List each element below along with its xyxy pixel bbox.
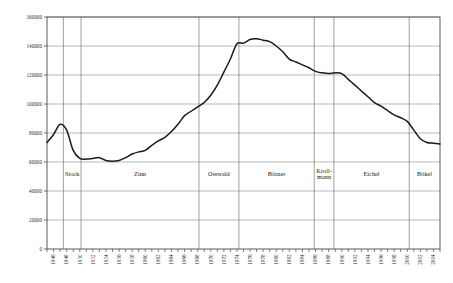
x-tick-label: 2004	[430, 254, 436, 265]
x-tick-label: 1986	[312, 254, 318, 265]
period-label-line: mann	[317, 173, 332, 180]
x-tick-label: 1954	[103, 254, 109, 265]
period-label: Bökel	[417, 170, 432, 177]
x-tick-label: 1946	[50, 254, 56, 265]
y-tick-label: 100000	[26, 101, 42, 107]
x-tick-label: 1998	[391, 254, 397, 265]
x-tick-label: 1996	[378, 254, 384, 265]
y-tick-label: 160000	[26, 14, 42, 20]
period-label: Eichel	[364, 170, 380, 177]
y-tick-label: 60000	[29, 159, 42, 165]
period-label: Osswald	[208, 170, 231, 177]
period-label: Stock	[65, 170, 80, 177]
x-tick-label: 1970	[208, 254, 214, 265]
x-tick-label: 1988	[325, 254, 331, 265]
x-tick-label: 1994	[365, 254, 371, 265]
x-tick-label: 1974	[234, 254, 240, 265]
y-tick-label: 120000	[26, 72, 42, 78]
period-label: Börner	[268, 170, 286, 177]
x-tick-label: 1984	[299, 254, 305, 265]
x-tick-label: 1952	[90, 254, 96, 265]
x-tick-label: 1990	[339, 254, 345, 265]
x-tick-label: 1966	[181, 254, 187, 265]
x-tick-label: 1962	[155, 254, 161, 265]
x-tick-label: 2002	[417, 254, 423, 265]
x-tick-label: 1978	[260, 254, 266, 265]
y-tick-label: 40000	[29, 188, 42, 194]
x-tick-label: 1960	[142, 254, 148, 265]
x-tick-label: 2000	[404, 254, 410, 265]
x-tick-label: 1982	[286, 254, 292, 265]
line-chart: 0200004000060000800001000001200001400001…	[0, 0, 453, 283]
x-tick-label: 1964	[168, 254, 174, 265]
y-tick-label: 140000	[26, 43, 42, 49]
x-tick-label: 1956	[116, 254, 122, 265]
y-tick-label: 20000	[29, 217, 42, 223]
x-tick-label: 1948	[63, 254, 69, 265]
x-tick-label: 1968	[194, 254, 200, 265]
period-label: Zinn	[134, 170, 147, 177]
chart-background	[0, 0, 453, 283]
x-tick-label: 1972	[221, 254, 227, 265]
chart-container: 0200004000060000800001000001200001400001…	[0, 0, 453, 283]
y-tick-label: 0	[39, 246, 42, 252]
x-tick-label: 1976	[247, 254, 253, 265]
x-tick-label: 1950	[77, 254, 83, 265]
x-tick-label: 1958	[129, 254, 135, 265]
x-tick-label: 1992	[352, 254, 358, 265]
x-tick-label: 1980	[273, 254, 279, 265]
period-label: Kroll-mann	[316, 167, 332, 181]
y-tick-label: 80000	[29, 130, 42, 136]
